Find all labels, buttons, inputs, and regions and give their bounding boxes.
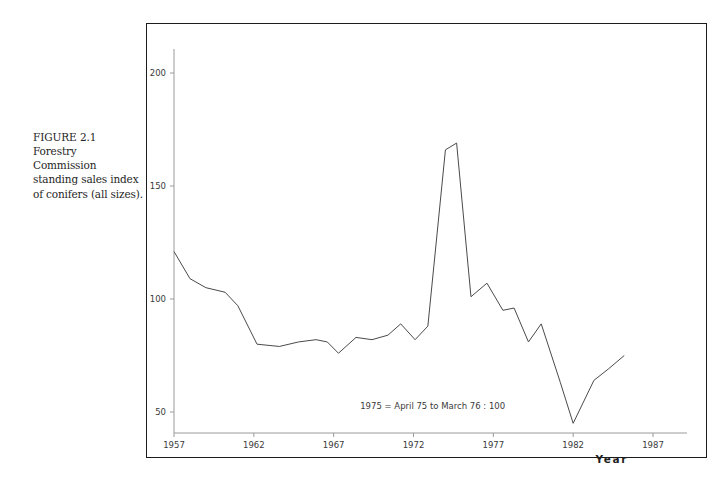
chart-tick-marks [170,73,653,437]
figure-caption: FIGURE 2.1 Forestry Commission standing … [33,130,143,201]
x-tick-label-1967: 1967 [323,440,345,450]
chart-annotation: 1975 = April 75 to March 76 : 100 [360,401,505,411]
x-axis-title: Year [596,453,628,465]
figure-caption-text: Forestry Commission standing sales index… [33,144,143,201]
data-series-line [174,143,624,423]
y-tick-label-50: 50 [147,407,166,417]
y-tick-label-150: 150 [147,181,166,191]
figure-frame: 50100150200 1957196219671972197719821987… [146,23,707,458]
line-chart-svg [147,24,708,459]
x-tick-label-1962: 1962 [243,440,265,450]
x-tick-label-1957: 1957 [163,440,185,450]
chart-axes [174,49,687,433]
x-tick-label-1987: 1987 [642,440,664,450]
x-tick-label-1972: 1972 [403,440,425,450]
chart-plot-area: 50100150200 1957196219671972197719821987… [147,24,706,457]
x-tick-label-1982: 1982 [562,440,584,450]
y-tick-label-200: 200 [147,68,166,78]
y-tick-label-100: 100 [147,294,166,304]
figure-number: FIGURE 2.1 [33,130,143,144]
x-tick-label-1977: 1977 [483,440,505,450]
